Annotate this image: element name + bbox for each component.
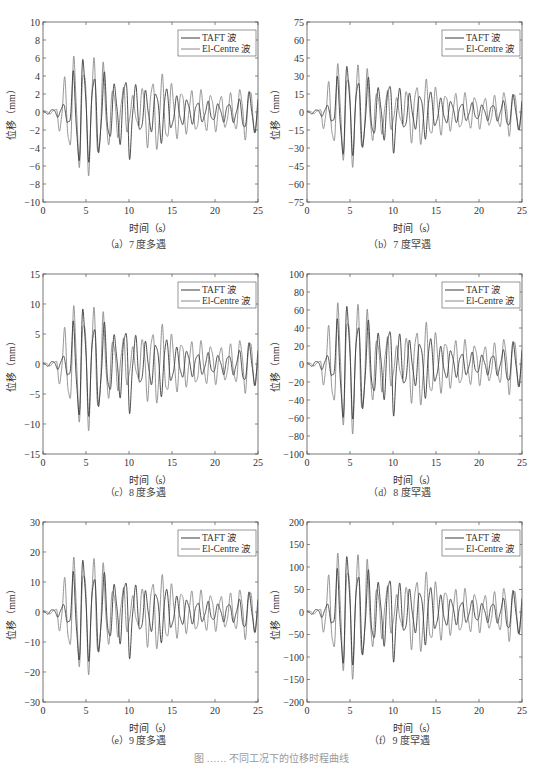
chart-panel-c: 0510152025−15−10−5051015时间（s）位移（mm）TAFT … [0,252,271,497]
x-tick-label: 20 [474,457,484,468]
x-axis-label: 时间（s） [393,222,437,234]
x-tick-label: 25 [517,205,527,216]
x-axis-label: 时间（s） [129,222,173,234]
panel-caption: （c）8 度多遇 [0,484,271,499]
y-tick-label: −5 [29,389,40,400]
x-tick-label: 25 [253,705,263,716]
y-axis-label: 位移（mm） [5,84,17,140]
plot-area [43,56,258,176]
x-tick-label: 20 [210,457,220,468]
chart-panel-e: 0510152025−30−20−100102030时间（s）位移（mm）TAF… [0,500,271,745]
y-tick-label: 2 [35,89,40,100]
series-elcentro [307,553,522,679]
chart-svg: 0510152025−100−80−60−40−20020406080100时间… [264,252,535,497]
y-tick-label: 150 [289,539,304,550]
panel-caption: （a）7 度多遇 [0,236,271,251]
x-tick-label: 5 [348,205,353,216]
y-tick-label: −20 [288,377,304,388]
y-tick-label: 20 [30,547,40,558]
x-tick-label: 10 [388,457,398,468]
y-tick-label: 10 [30,299,40,310]
x-tick-label: 15 [431,457,441,468]
chart-panel-f: 0510152025−200−150−100−50050100150200时间（… [264,500,535,745]
y-tick-label: −15 [24,449,40,460]
legend-label-elcentro: El-Centre 波 [202,295,251,306]
y-tick-label: −2 [29,125,40,136]
y-tick-label: 45 [294,53,304,64]
y-tick-label: 40 [294,323,304,334]
x-tick-label: 20 [210,205,220,216]
y-axis-label: 位移（mm） [269,336,281,392]
x-tick-label: 25 [517,457,527,468]
legend-label-taft: TAFT 波 [202,32,237,43]
x-tick-label: 15 [431,205,441,216]
series-elcentro [43,557,258,675]
y-axis-label: 位移（mm） [269,584,281,640]
y-tick-label: −60 [288,413,304,424]
series-elcentro [43,56,258,176]
x-tick-label: 25 [253,205,263,216]
y-tick-label: −200 [283,697,304,708]
x-tick-label: 5 [84,205,89,216]
y-tick-label: −150 [283,674,304,685]
x-tick-label: 15 [167,705,177,716]
y-tick-label: −45 [288,161,304,172]
x-tick-label: 15 [167,457,177,468]
x-tick-label: 10 [388,205,398,216]
x-tick-label: 10 [124,705,134,716]
y-tick-label: −15 [288,125,304,136]
legend-label-taft: TAFT 波 [202,284,237,295]
legend-label-taft: TAFT 波 [466,284,501,295]
y-tick-label: −50 [288,629,304,640]
x-tick-label: 5 [348,457,353,468]
y-tick-label: 15 [30,269,40,280]
legend-label-elcentro: El-Centre 波 [466,543,515,554]
chart-svg: 0510152025−75−60−45−30−1501530456075时间（s… [264,0,535,245]
x-tick-label: 10 [124,457,134,468]
legend-label-taft: TAFT 波 [466,532,501,543]
y-tick-label: 30 [30,517,40,528]
y-tick-label: 20 [294,341,304,352]
y-tick-label: 50 [294,584,304,595]
y-tick-label: 6 [35,53,40,64]
y-tick-label: 8 [35,35,40,46]
y-tick-label: 0 [299,359,304,370]
chart-panel-d: 0510152025−100−80−60−40−20020406080100时间… [264,252,535,497]
legend-label-elcentro: El-Centre 波 [202,543,251,554]
panel-caption: （d）8 度罕遇 [264,484,535,499]
x-tick-label: 5 [348,705,353,716]
x-tick-label: 0 [305,457,310,468]
x-tick-label: 0 [305,705,310,716]
y-tick-label: −30 [288,143,304,154]
plot-area [307,303,522,434]
y-tick-label: 80 [294,287,304,298]
x-tick-label: 25 [517,705,527,716]
y-tick-label: −8 [29,179,40,190]
plot-area [307,553,522,679]
x-tick-label: 20 [474,205,484,216]
y-tick-label: −6 [29,161,40,172]
y-tick-label: 10 [30,17,40,28]
x-tick-label: 20 [210,705,220,716]
legend-label-elcentro: El-Centre 波 [466,43,515,54]
legend-label-elcentro: El-Centre 波 [466,295,515,306]
x-tick-label: 5 [84,457,89,468]
panel-caption: （e）9 度多遇 [0,732,271,747]
chart-svg: 0510152025−30−20−100102030时间（s）位移（mm）TAF… [0,500,271,745]
x-tick-label: 0 [41,205,46,216]
y-tick-label: 10 [30,577,40,588]
legend-label-elcentro: El-Centre 波 [202,43,251,54]
y-axis-label: 位移（mm） [5,584,17,640]
chart-svg: 0510152025−10−8−6−4−20246810时间（s）位移（mm）T… [0,0,271,245]
y-tick-label: 0 [299,107,304,118]
x-tick-label: 10 [124,205,134,216]
y-tick-label: 15 [294,89,304,100]
y-axis-label: 位移（mm） [269,84,281,140]
legend-label-taft: TAFT 波 [466,32,501,43]
y-tick-label: −30 [24,697,40,708]
chart-svg: 0510152025−200−150−100−50050100150200时间（… [264,500,535,745]
y-tick-label: −4 [29,143,40,154]
chart-panel-b: 0510152025−75−60−45−30−1501530456075时间（s… [264,0,535,245]
series-elcentro [307,303,522,434]
y-tick-label: 0 [299,607,304,618]
